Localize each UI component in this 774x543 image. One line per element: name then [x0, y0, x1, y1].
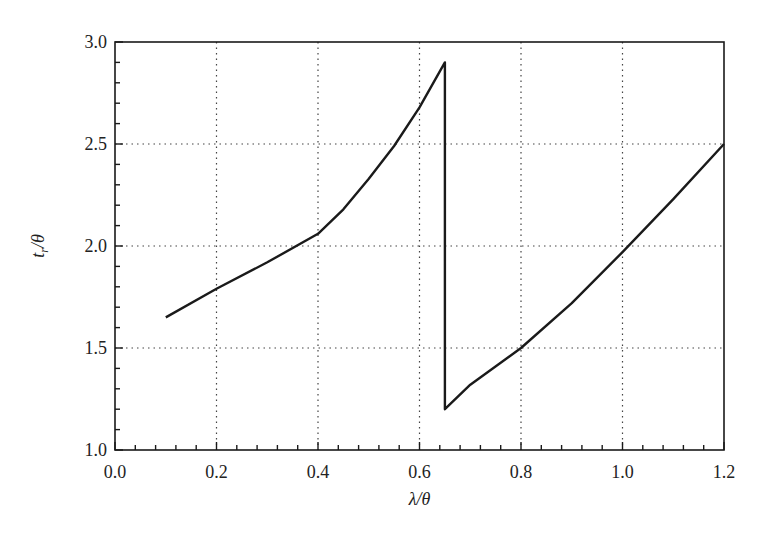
data-series	[166, 62, 724, 409]
x-tick-label: 1.0	[611, 462, 634, 482]
series-line	[166, 62, 724, 409]
y-tick-label: 3.0	[85, 32, 108, 52]
line-chart: 0.00.20.40.60.81.01.2 1.01.52.02.53.0 λ/…	[0, 0, 774, 543]
y-tick-label: 2.0	[85, 236, 108, 256]
grid-lines	[115, 42, 724, 450]
y-tick-labels: 1.01.52.02.53.0	[85, 32, 108, 460]
x-tick-label: 0.0	[104, 462, 127, 482]
x-tick-label: 0.2	[205, 462, 228, 482]
x-tick-label: 0.4	[307, 462, 330, 482]
y-tick-label: 2.5	[85, 134, 108, 154]
x-tick-label: 0.6	[408, 462, 431, 482]
x-tick-labels: 0.00.20.40.60.81.01.2	[104, 462, 736, 482]
y-tick-label: 1.0	[85, 440, 108, 460]
x-tick-label: 0.8	[510, 462, 533, 482]
y-axis-label-suffix: /θ	[28, 234, 48, 249]
x-axis-label: λ/θ	[408, 489, 431, 509]
y-tick-label: 1.5	[85, 338, 108, 358]
y-axis-label: tr/θ	[28, 234, 51, 258]
x-tick-label: 1.2	[713, 462, 736, 482]
